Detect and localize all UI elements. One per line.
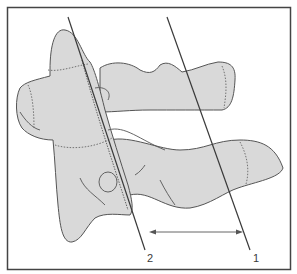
upper-vertebra-shape [100,62,235,112]
diagram-canvas: 2 1 [0,0,297,274]
line-2-label: 2 [147,252,153,264]
vertebrae-diagram: 2 1 [0,0,297,274]
line-1-label: 1 [253,252,259,264]
